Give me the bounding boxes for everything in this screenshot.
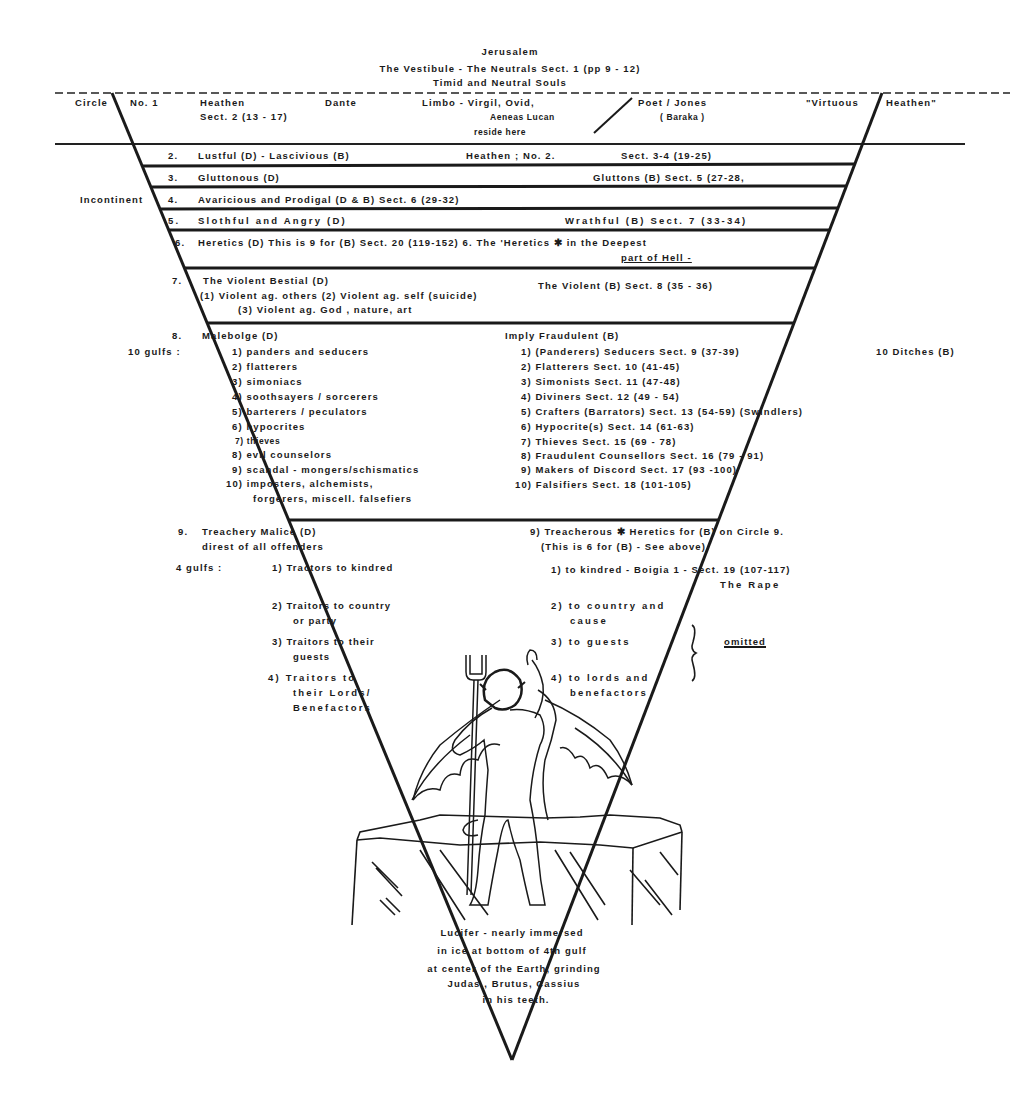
circle1-reside: reside here bbox=[474, 128, 526, 137]
circle5-number: 5. bbox=[168, 216, 180, 226]
circle8-baraka-title: Imply Fraudulent (B) bbox=[505, 331, 619, 341]
list-item: 3) simoniacs bbox=[232, 377, 303, 387]
list-item-cont: cause bbox=[570, 616, 608, 626]
caption-line: Judas , Brutus, Cassius bbox=[447, 979, 580, 989]
circle4-text: Avaricious and Prodigal (D & B) Sect. 6 … bbox=[198, 195, 459, 205]
circle1-aeneas: Aeneas Lucan bbox=[490, 113, 555, 122]
circle1-poet: Poet / Jones bbox=[638, 98, 707, 108]
list-item-cont: benefactors bbox=[570, 688, 648, 698]
caption-line: in his teeth. bbox=[482, 995, 549, 1005]
circle3-number: 3. bbox=[168, 173, 178, 183]
jerusalem-label: Jerusalem bbox=[482, 47, 539, 57]
circle2-sect: Sect. 3-4 (19-25) bbox=[621, 151, 712, 161]
circle7-line2: (3) Violent ag. God , nature, art bbox=[238, 305, 412, 315]
incontinent-label: Incontinent bbox=[80, 195, 143, 205]
circle9-baraka-title: 9) Treacherous ✱ Heretics for (B) on Cir… bbox=[530, 527, 784, 537]
vestibule-title: The Vestibule - The Neutrals Sect. 1 (pp… bbox=[380, 64, 641, 74]
list-item-cont: their Lords/ bbox=[293, 688, 372, 698]
list-item: 9) scandal - mongers/schismatics bbox=[232, 465, 419, 475]
list-item-cont: or party bbox=[293, 616, 337, 626]
list-item: 3) Traitors to their bbox=[272, 637, 375, 647]
circle6-number: 6. bbox=[175, 238, 185, 248]
list-item: 2) Traitors to country bbox=[272, 601, 391, 611]
circle1-sect: Sect. 2 (13 - 17) bbox=[200, 112, 288, 122]
list-item: forgerers, miscell. falsefiers bbox=[253, 494, 412, 504]
circle2-heathen: Heathen ; No. 2. bbox=[466, 151, 555, 161]
divider-2-3 bbox=[143, 164, 854, 166]
omitted-note: omitted bbox=[724, 637, 766, 647]
poet-slash bbox=[594, 98, 632, 133]
caption-line: at center of the Earth, grinding bbox=[427, 964, 601, 974]
circle8-number: 8. bbox=[172, 331, 182, 341]
omitted-brace bbox=[692, 625, 696, 681]
circle7-baraka: The Violent (B) Sect. 8 (35 - 36) bbox=[538, 281, 713, 291]
list-item-cont: The Rape bbox=[720, 580, 780, 590]
circle8-ditches-note: 10 Ditches (B) bbox=[876, 347, 955, 357]
list-item-cont: Benefactors bbox=[293, 703, 372, 713]
circle1-virtuous: "Virtuous bbox=[806, 98, 859, 108]
list-item: 5) barterers / peculators bbox=[232, 407, 368, 417]
list-item: 1) to kindred - Boigia 1 - Sect. 19 (107… bbox=[551, 565, 791, 575]
ice-block bbox=[352, 815, 682, 925]
circle2-dante: Lustful (D) - Lascivious (B) bbox=[198, 151, 350, 161]
vestibule-subtitle: Timid and Neutral Souls bbox=[433, 78, 567, 88]
list-item: 4) Traitors to bbox=[268, 673, 356, 683]
circle7-title: The Violent Bestial (D) bbox=[203, 276, 329, 286]
circle2-number: 2. bbox=[168, 151, 178, 161]
circle9-baraka-subtitle: (This is 6 for (B) - See above) bbox=[541, 542, 706, 552]
circle8-title: Malebolge (D) bbox=[202, 331, 279, 341]
circle1-baraka: ( Baraka ) bbox=[660, 113, 705, 122]
circle1-heathen: Heathen bbox=[200, 98, 245, 108]
list-item: 10) imposters, alchemists, bbox=[226, 479, 373, 489]
list-item: 1) Tractors to kindred bbox=[272, 563, 393, 573]
divider-4-5 bbox=[161, 208, 838, 209]
list-item: 2) flatterers bbox=[232, 362, 298, 372]
circle9-gulfs-label: 4 gulfs : bbox=[176, 563, 222, 573]
circle3-dante: Gluttonous (D) bbox=[198, 173, 280, 183]
caption-line: Lucifer - nearly immersed bbox=[440, 928, 583, 938]
list-item: 8) evil counselors bbox=[232, 450, 332, 460]
circle6-text: Heretics (D) This is 9 for (B) Sect. 20 … bbox=[198, 238, 647, 248]
list-item: 6) hypocrites bbox=[232, 422, 305, 432]
circle5-baraka: Wrathful (B) Sect. 7 (33-34) bbox=[565, 216, 747, 226]
list-item: 2) to country and bbox=[551, 601, 665, 611]
list-item: 3) Simonists Sect. 11 (47-48) bbox=[521, 377, 681, 387]
circle1-limbo: Limbo - Virgil, Ovid, bbox=[422, 98, 535, 108]
circle8-gulfs-label: 10 gulfs : bbox=[128, 347, 181, 357]
circle1-heathen-quote: Heathen" bbox=[886, 98, 937, 108]
list-item: 1) (Panderers) Seducers Sect. 9 (37-39) bbox=[521, 347, 740, 357]
list-item: 7) thieves bbox=[235, 437, 280, 446]
list-item: 8) Fraudulent Counsellors Sect. 16 (79 -… bbox=[521, 451, 764, 461]
circle9-subtitle: direst of all offenders bbox=[202, 542, 324, 552]
list-item: 9) Makers of Discord Sect. 17 (93 -100) bbox=[521, 465, 737, 475]
circle3-baraka: Gluttons (B) Sect. 5 (27-28, bbox=[593, 173, 745, 183]
right-wing bbox=[545, 700, 632, 785]
circle6-sub: part of Hell - bbox=[621, 253, 692, 263]
circle7-line1: (1) Violent ag. others (2) Violent ag. s… bbox=[200, 291, 478, 301]
list-item: 4) soothsayers / sorcerers bbox=[232, 392, 379, 402]
lucifer-head bbox=[484, 670, 522, 710]
caption-line: in ice at bottom of 4th gulf bbox=[437, 946, 587, 956]
circle9-number: 9. bbox=[178, 527, 188, 537]
list-item-cont: guests bbox=[293, 652, 330, 662]
circle5-dante: Slothful and Angry (D) bbox=[198, 216, 347, 226]
list-item: 5) Crafters (Barrators) Sect. 13 (54-59)… bbox=[521, 407, 803, 417]
circle1-dante: Dante bbox=[325, 98, 357, 108]
circle9-title: Treachery Malice (D) bbox=[202, 527, 316, 537]
list-item: 2) Flatterers Sect. 10 (41-45) bbox=[521, 362, 680, 372]
list-item: 1) panders and seducers bbox=[232, 347, 369, 357]
circle-label: Circle bbox=[75, 98, 108, 108]
list-item: 7) Thieves Sect. 15 (69 - 78) bbox=[521, 437, 676, 447]
list-item: 10) Falsifiers Sect. 18 (101-105) bbox=[515, 480, 692, 490]
list-item: 4) Diviners Sect. 12 (49 - 54) bbox=[521, 392, 680, 402]
list-item: 6) Hypocrite(s) Sect. 14 (61-63) bbox=[521, 422, 695, 432]
divider-3-4 bbox=[152, 186, 846, 187]
circle7-number: 7. bbox=[172, 276, 182, 286]
list-item: 3) to guests bbox=[551, 637, 631, 647]
list-item: 4) to lords and bbox=[551, 673, 649, 683]
circle1-number: No. 1 bbox=[130, 98, 159, 108]
circle4-number: 4. bbox=[168, 195, 178, 205]
